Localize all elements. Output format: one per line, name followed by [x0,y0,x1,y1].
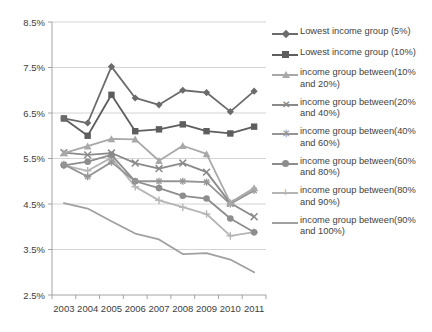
series-marker [84,158,91,165]
legend-item-label: income group between(10% and 20%) [298,67,432,90]
x-axis-tick-label: 2009 [196,303,217,314]
x-axis-tick-label: 2010 [220,303,241,314]
legend-marker-icon [272,157,298,170]
y-axis-tick-label: 6.5% [23,108,45,119]
legend-marker-icon: ✕ [272,98,298,111]
series-marker [179,193,186,200]
series-marker [251,229,258,236]
series-marker [227,130,233,136]
series-marker [156,185,163,192]
x-axis-tick-label: 2003 [53,303,74,314]
series-marker [180,121,186,127]
legend-marker-icon [272,48,298,61]
legend-marker-icon [272,27,298,40]
x-axis-tick-label: 2008 [172,303,193,314]
series-line [64,67,254,123]
series-marker [250,184,258,191]
legend-item[interactable]: Lowest income group (10%) [272,47,432,61]
legend-marker-icon [272,216,298,229]
x-axis-tick-label: 2004 [77,303,98,314]
legend-marker-icon: + [272,186,298,199]
series-marker [84,119,91,126]
legend-item-label: Lowest income group (5%) [298,26,411,38]
x-axis-tick-label: 2007 [148,303,169,314]
legend-item-label: income group between(40% and 60%) [298,126,432,149]
y-axis-tick-label: 3.5% [23,244,45,255]
x-axis-tick-label: 2011 [244,303,264,314]
x-axis-tick-label: 2005 [101,303,122,314]
y-axis-tick-label: 5.5% [23,153,45,164]
series-marker [227,215,234,222]
series-marker [179,142,187,149]
series-marker [203,128,209,134]
y-axis-tick-label: 4.5% [23,199,45,210]
series-5 [61,152,258,236]
series-marker [108,92,114,98]
series-marker [203,195,210,202]
y-axis-tick-label: 7.5% [23,62,45,73]
y-axis-tick-label: 8.5% [23,17,45,28]
legend-marker-icon: ✳ [272,127,298,140]
legend-item-label: income group between(90% and 100%) [298,215,432,238]
line-chart: 8.5%7.5%6.5%5.5%4.5%3.5%2.5%200320042005… [0,0,432,332]
y-axis-tick-label: 2.5% [23,290,45,301]
series-marker [84,133,90,139]
legend-item-label: Lowest income group (10%) [298,47,416,59]
legend-item[interactable]: income group between(60% and 80%) [272,156,432,179]
legend-item[interactable]: income group between(10% and 20%) [272,67,432,90]
legend-item-label: income group between(20% and 40%) [298,97,432,120]
legend-item[interactable]: Lowest income group (5%) [272,26,432,40]
series-marker [156,126,162,132]
series-0 [60,63,257,127]
series-line [64,139,254,203]
series-marker [132,128,138,134]
chart-legend: Lowest income group (5%)Lowest income gr… [272,26,432,244]
legend-item-label: income group between(80% and 90%) [298,185,432,208]
series-marker [251,123,257,129]
legend-item-label: income group between(60% and 80%) [298,156,432,179]
legend-item[interactable]: ✕income group between(20% and 40%) [272,97,432,120]
legend-item[interactable]: ✳income group between(40% and 60%) [272,126,432,149]
x-axis-tick-label: 2006 [125,303,146,314]
legend-item[interactable]: income group between(90% and 100%) [272,215,432,238]
legend-item[interactable]: +income group between(80% and 90%) [272,185,432,208]
legend-marker-icon [272,68,298,81]
